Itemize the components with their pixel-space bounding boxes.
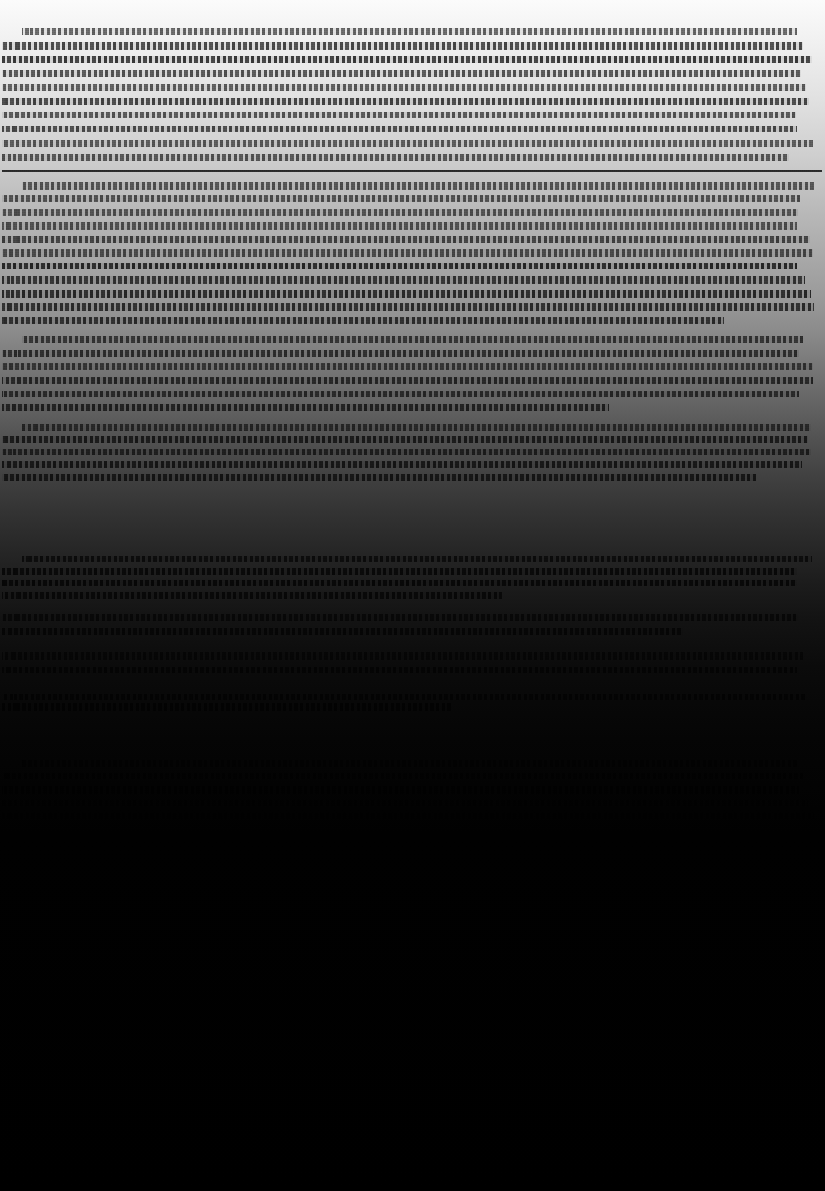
text-line [2,42,803,50]
text-line [2,140,813,147]
text-line [2,276,805,284]
text-line [2,70,801,77]
text-line [2,404,609,410]
text-line [2,290,811,298]
text-line [2,813,814,819]
text-line [2,568,797,575]
text-line [2,667,797,673]
text-line [22,182,814,190]
text-line [2,84,806,91]
text-line [2,703,453,711]
text-line [22,760,799,767]
text-line [2,126,797,132]
text-line [2,317,724,325]
text-line [2,592,502,599]
text-line [2,786,799,794]
text-line [2,614,798,621]
text-line [2,222,797,229]
text-line [2,209,798,216]
text-line [2,652,803,660]
text-line [2,195,800,202]
text-line [2,436,808,443]
text-line [2,377,813,384]
text-line [22,424,811,431]
text-line [22,28,797,35]
text-line [2,350,799,357]
paper-sheet [0,0,825,1191]
text-line [2,56,812,63]
text-line [2,449,811,456]
text-line [2,303,814,311]
text-line [2,363,813,370]
text-line [22,336,803,343]
text-line [2,461,802,468]
text-line [2,580,797,586]
text-line [2,694,805,700]
text-line [2,249,813,257]
horizontal-rule [2,170,822,172]
text-line [2,98,809,105]
text-line [22,556,812,562]
document-page [0,0,825,1191]
text-line [2,263,797,270]
text-line [2,391,799,397]
text-line [2,474,756,481]
text-line [2,773,804,779]
text-line [2,112,796,118]
text-line [2,800,808,806]
text-line [2,628,683,635]
text-line [2,154,789,161]
text-line [2,236,810,243]
